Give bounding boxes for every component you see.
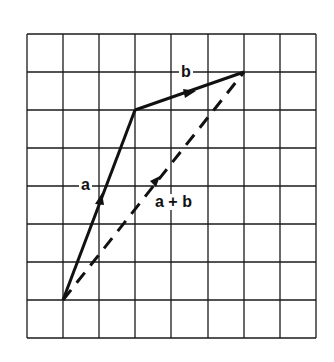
label-a: a	[79, 177, 92, 193]
label-b: b	[179, 64, 193, 80]
label-a-plus-b: a + b	[153, 194, 194, 210]
vector-diagram	[0, 0, 334, 362]
